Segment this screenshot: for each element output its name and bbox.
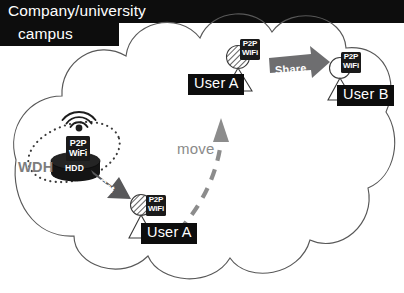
user-a-bottom-label: User A [141,223,197,244]
user-a-bottom-p2p-line-2: WiFi [148,205,164,214]
figure-canvas: Company/university campus WDH P2P WiFi H… [0,0,404,293]
wdh-label: WDH [18,159,54,175]
wdh-p2p-wifi-badge: P2P WiFi [66,136,90,161]
user-b-p2p-line-2: WiFi [343,62,359,71]
share-arrow-label: Share [275,62,307,76]
wdh-p2p-line-1: P2P [69,138,87,148]
user-a-top-p2p-line-2: WiFi [242,49,258,58]
wdh-hdd-label: HDD [65,163,84,173]
wdh-wifi-waves-icon [63,112,96,131]
move-arrow-label: move [177,140,214,157]
move-arrow [179,118,229,230]
user-b-p2p-wifi-badge: P2P WiFi [341,52,361,73]
user-a-bottom-p2p-wifi-badge: P2P WiFi [146,195,166,216]
user-a-top-p2p-wifi-badge: P2P WiFi [240,39,260,60]
wdh-p2p-line-2: WiFi [69,148,87,158]
user-a-top-label: User A [188,74,244,95]
user-b-label: User B [337,85,394,106]
